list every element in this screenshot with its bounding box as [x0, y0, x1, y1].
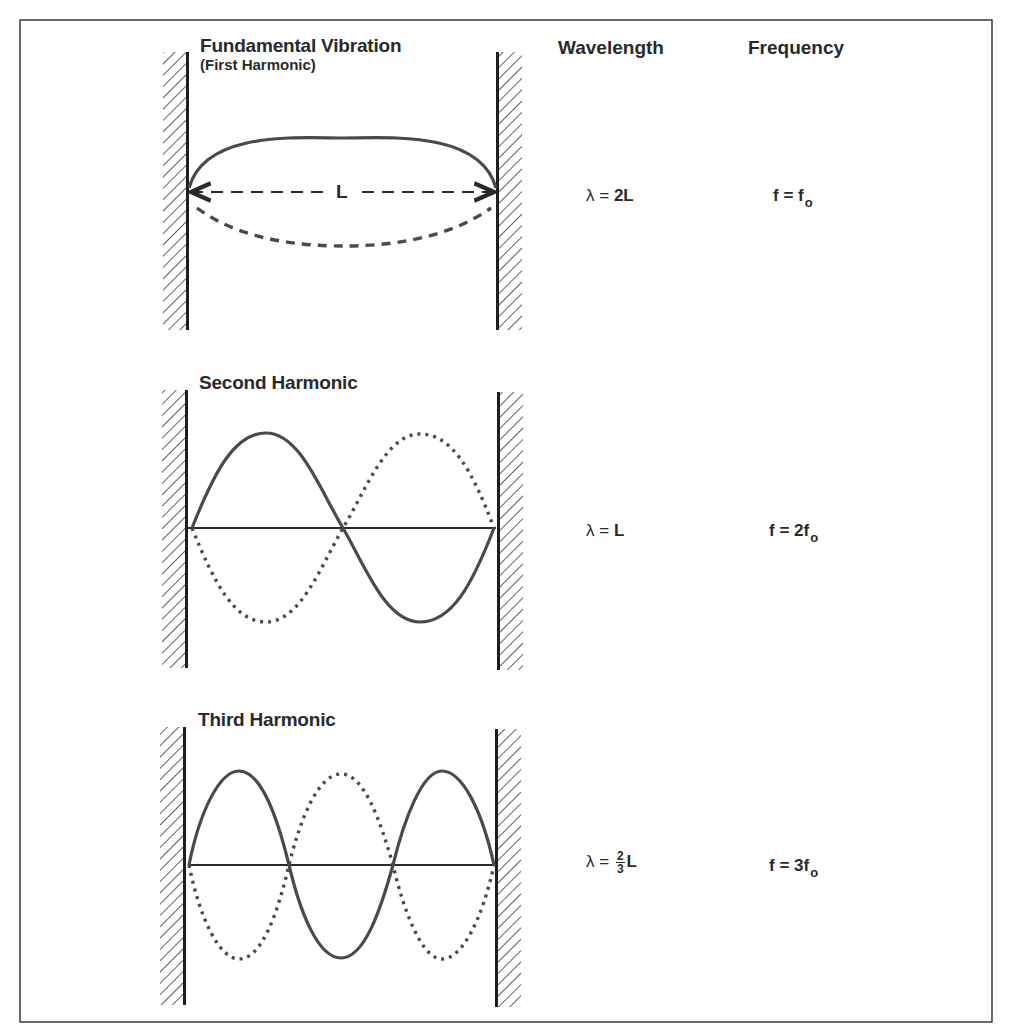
frequency-lhs: f = 2f	[769, 521, 809, 540]
wavelength-column-header: Wavelength	[558, 37, 664, 59]
wavelength-rhs: L	[614, 521, 624, 540]
panel-2-title: Second Harmonic	[199, 372, 358, 394]
wavelength-lhs: λ =	[586, 852, 614, 871]
length-label: L	[336, 181, 348, 203]
panel-2-wavelength: λ = L	[586, 521, 624, 541]
fraction-denominator: 3	[616, 863, 625, 875]
diagram-canvas	[0, 0, 1013, 1035]
frequency-lhs: f = f	[773, 186, 804, 205]
frequency-sub: o	[810, 530, 818, 545]
frequency-lhs: f = 3f	[769, 856, 809, 875]
frequency-column-header: Frequency	[748, 37, 844, 59]
panel-3-frequency: f = 3fo	[769, 856, 818, 880]
wavelength-lhs: λ =	[586, 521, 614, 540]
panel-1-subtitle: (First Harmonic)	[200, 56, 316, 73]
wavelength-fraction: 23	[616, 850, 625, 875]
wavelength-lhs: λ =	[586, 186, 614, 205]
panel-1-title: Fundamental Vibration	[200, 35, 401, 57]
frequency-sub: o	[810, 865, 818, 880]
panel-3-title: Third Harmonic	[198, 709, 336, 731]
panel-3-wavelength: λ = 23L	[586, 850, 637, 875]
wavelength-rhs: L	[627, 852, 637, 871]
panel-2-frequency: f = 2fo	[769, 521, 818, 545]
wavelength-rhs: 2L	[614, 186, 634, 205]
panel-3-walls	[160, 727, 521, 1007]
standing-waves-figure: Wavelength Frequency Fundamental Vibrati…	[0, 0, 1013, 1035]
panel-3-wave-dotted	[189, 774, 494, 959]
frequency-sub: o	[805, 195, 813, 210]
panel-1-frequency: f = fo	[773, 186, 813, 210]
panel-1-wavelength: λ = 2L	[586, 186, 634, 206]
panel-1-wave-dashed	[197, 208, 491, 246]
